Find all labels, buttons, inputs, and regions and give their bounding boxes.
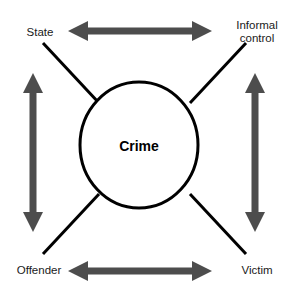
arrow-offender-victim [68, 261, 212, 281]
center-label-crime: Crime [79, 138, 199, 154]
arrow-informal-control-victim [245, 73, 265, 232]
line-victim-to-crime [190, 194, 246, 254]
line-informal-control-to-crime [190, 43, 246, 103]
arrow-state-informal-control [68, 21, 212, 41]
crime-relationship-diagram: State Informal control Offender Victim C… [0, 0, 289, 299]
line-state-to-crime [43, 43, 99, 103]
node-label-offender: Offender [8, 264, 70, 277]
line-offender-to-crime [43, 194, 99, 254]
node-label-state: State [14, 26, 66, 39]
node-label-informal-control: Informal control [226, 19, 288, 44]
arrow-state-offender [23, 73, 43, 232]
node-label-victim: Victim [232, 264, 282, 277]
